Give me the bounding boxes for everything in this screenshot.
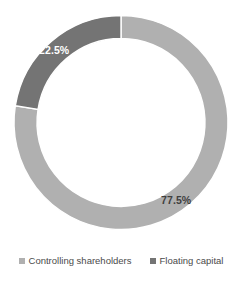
- chart-legend: Controlling shareholders Floating capita…: [0, 249, 242, 273]
- slice-label-floating-capital: 22.5%: [39, 45, 69, 56]
- legend-label-controlling-shareholders: Controlling shareholders: [29, 256, 132, 266]
- legend-item-controlling-shareholders[interactable]: Controlling shareholders: [19, 256, 132, 266]
- donut-chart: 22.5% 77.5%: [0, 0, 242, 240]
- donut-slice-floating-capital[interactable]: [15, 16, 121, 110]
- legend-item-floating-capital[interactable]: Floating capital: [150, 256, 224, 266]
- legend-swatch-icon-floating-capital: [150, 258, 156, 264]
- slice-label-controlling-shareholders: 77.5%: [161, 195, 191, 206]
- legend-label-floating-capital: Floating capital: [160, 256, 224, 266]
- donut-chart-svg: [0, 0, 242, 240]
- legend-swatch-icon-controlling-shareholders: [19, 258, 25, 264]
